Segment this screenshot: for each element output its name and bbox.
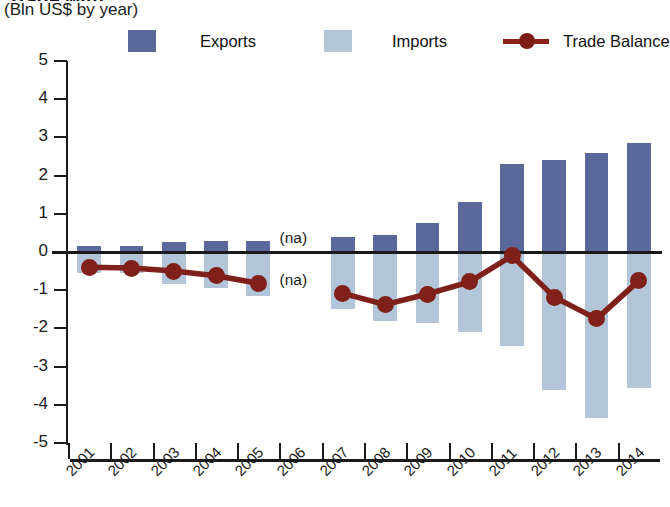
trade-balance-point-2005 (250, 275, 267, 292)
trade-balance-point-2001 (81, 259, 98, 276)
trade-balance-point-2004 (208, 267, 225, 284)
trade-balance-point-2002 (123, 260, 140, 277)
trade-balance-point-2014 (630, 272, 647, 289)
trade-balance-point-2007 (334, 285, 351, 302)
trade-balance-point-2011 (504, 247, 521, 264)
trade-balance-point-2008 (377, 296, 394, 313)
trade-balance-point-2013 (588, 310, 605, 327)
trade-balance-point-2012 (546, 289, 563, 306)
trade-balance-point-2003 (165, 263, 182, 280)
trade-balance-point-2010 (461, 273, 478, 290)
trade-balance-point-2009 (419, 286, 436, 303)
